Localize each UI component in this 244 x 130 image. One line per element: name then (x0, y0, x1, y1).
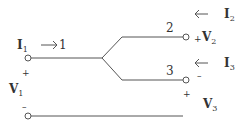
port2-node-label: 2 (166, 22, 174, 34)
port1-plus: + (22, 67, 30, 79)
port1-voltage-label: V1 (9, 83, 23, 100)
port1-node-label: 1 (59, 39, 67, 51)
port2-plus: + (194, 33, 202, 45)
port3-minus-top: – (197, 70, 202, 82)
port2-voltage-label: V2 (202, 31, 216, 48)
port1-minus: – (22, 101, 27, 113)
port3-plus: + (183, 88, 191, 100)
three-port-junction-diagram: I1 1 + V1 – 2 I2 + V2 3 I3 – + V3 (0, 0, 244, 130)
port3-voltage-label: V3 (203, 98, 217, 115)
port3-current-label: I3 (224, 57, 235, 74)
port2-current-label: I2 (224, 8, 235, 25)
port1-current-label: I1 (17, 39, 28, 56)
port3-node-label: 3 (166, 65, 174, 77)
